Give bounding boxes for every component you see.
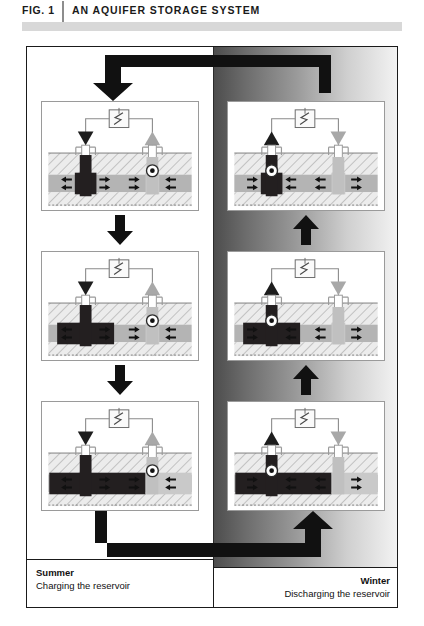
cycle-arrow-top [93,53,339,101]
step-arrow-winter-2 [293,365,319,395]
heat-exchanger-icon [109,408,129,428]
injection-well [333,307,345,344]
pump-icon [147,465,159,477]
diagram-frame: Summer Charging the reservoir Winter Dis… [26,46,398,608]
injection-well [80,455,92,496]
injection-well [333,157,345,194]
step-arrow-summer-1 [107,215,133,245]
down-triangle-icon [78,281,94,295]
panel-winter-stage-2 [227,251,385,361]
heat-exchanger-icon [295,258,315,278]
panel-summer-stage-1 [41,101,199,211]
down-triangle-icon [331,431,347,445]
up-triangle-icon [145,281,161,295]
up-triangle-icon [264,131,280,145]
pump-icon [147,315,159,327]
figure-number: FIG. 1 [22,4,55,16]
caption-summer: Summer Charging the reservoir [27,559,214,608]
up-triangle-icon [145,131,161,145]
down-triangle-icon [78,431,94,445]
caption-summer-season: Summer [36,567,204,579]
panel-summer-stage-3 [41,401,199,511]
caption-winter-subtitle: Discharging the reservoir [223,587,390,600]
pump-icon [266,165,278,177]
injection-well [80,305,92,346]
caption-summer-subtitle: Charging the reservoir [36,579,204,592]
figure-title: AN AQUIFER STORAGE SYSTEM [72,4,260,16]
up-triangle-icon [264,281,280,295]
pump-icon [147,165,159,177]
panel-winter-stage-1 [227,101,385,211]
panel-summer-stage-2 [41,251,199,361]
figure-header: FIG. 1 AN AQUIFER STORAGE SYSTEM [0,0,424,34]
down-triangle-icon [331,281,347,295]
heat-exchanger-icon [295,408,315,428]
cold-plume [235,473,331,495]
heat-exchanger-icon [295,108,315,128]
heat-exchanger-icon [109,108,129,128]
injection-well [333,457,345,494]
header-rule [22,22,402,31]
step-arrow-summer-2 [107,365,133,395]
heat-exchanger-icon [109,258,129,278]
pump-icon [266,315,278,327]
panel-winter-stage-3 [227,401,385,511]
up-triangle-icon [145,431,161,445]
pump-icon [266,465,278,477]
down-triangle-icon [331,131,347,145]
cold-plume [49,473,145,495]
caption-winter: Winter Discharging the reservoir [213,567,398,608]
up-triangle-icon [264,431,280,445]
step-arrow-winter-1 [293,215,319,245]
down-triangle-icon [78,131,94,145]
cycle-arrow-bottom [93,511,339,559]
caption-winter-season: Winter [223,575,390,587]
injection-well [80,155,92,196]
